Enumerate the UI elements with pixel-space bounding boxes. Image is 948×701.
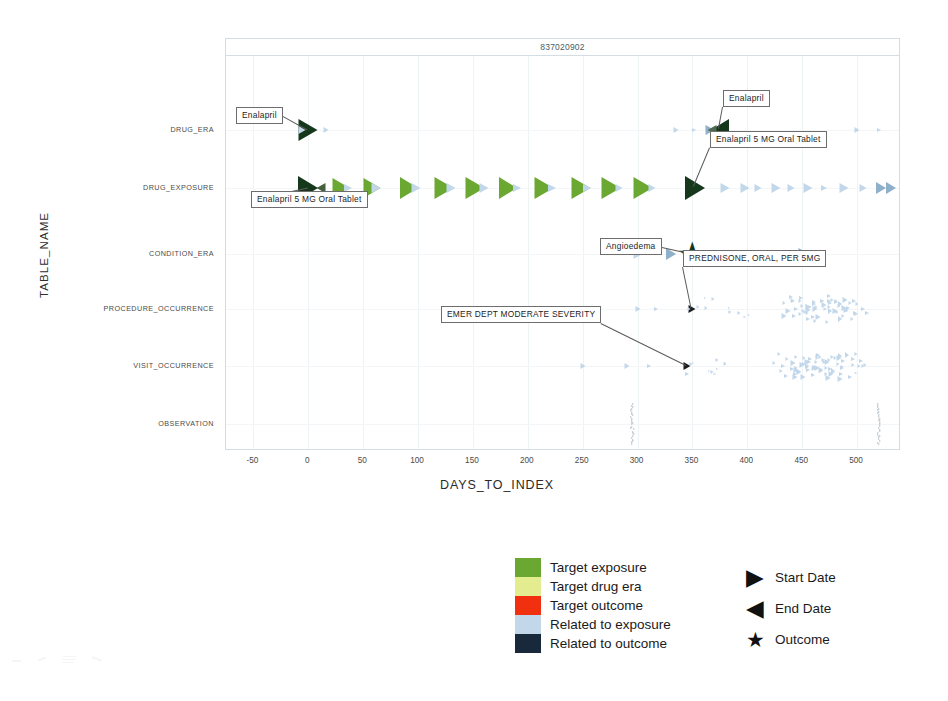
chart-title: 837020902 bbox=[540, 42, 584, 52]
start-date-icon bbox=[841, 359, 845, 363]
start-date-icon bbox=[828, 358, 831, 362]
start-date-icon bbox=[715, 358, 718, 362]
start-date-icon bbox=[812, 306, 817, 312]
start-date-icon bbox=[790, 367, 794, 371]
start-date-icon bbox=[806, 317, 810, 321]
start-date-icon bbox=[624, 363, 629, 369]
start-date-icon bbox=[748, 314, 750, 316]
start-date-icon bbox=[828, 308, 832, 314]
start-date-icon bbox=[861, 307, 865, 311]
gridline-vertical bbox=[583, 56, 584, 449]
chart-legend: Target exposureTarget drug eraTarget out… bbox=[430, 548, 900, 673]
start-date-icon bbox=[856, 302, 859, 306]
start-date-icon bbox=[833, 308, 838, 314]
start-date-icon bbox=[834, 299, 837, 303]
start-date-icon bbox=[741, 183, 750, 193]
start-date-icon bbox=[786, 357, 789, 361]
x-axis-tick-350: 350 bbox=[685, 456, 699, 465]
start-date-icon bbox=[755, 184, 762, 192]
start-date-icon bbox=[635, 306, 640, 312]
x-axis-tick-200: 200 bbox=[520, 456, 534, 465]
start-date-icon bbox=[824, 307, 827, 311]
start-date-icon bbox=[859, 184, 866, 192]
start-date-icon bbox=[791, 299, 795, 303]
start-date-icon bbox=[886, 182, 896, 194]
y-axis-label-drug_exposure: DRUG_EXPOSURE bbox=[143, 183, 214, 192]
start-date-icon bbox=[814, 360, 817, 364]
start-date-icon bbox=[548, 184, 556, 192]
start-date-icon bbox=[834, 356, 837, 360]
start-date-icon bbox=[828, 301, 832, 305]
legend-shape-row: ◀End Date bbox=[735, 593, 836, 624]
end-date-icon: ◀ bbox=[735, 595, 775, 622]
start-date-icon bbox=[865, 311, 869, 315]
start-date-icon bbox=[852, 363, 855, 367]
y-axis-tick-labels: DRUG_ERADRUG_EXPOSURECONDITION_ERAPROCED… bbox=[0, 38, 222, 450]
x-axis-tick-250: 250 bbox=[575, 456, 589, 465]
annotation-callout[interactable]: PREDNISONE, ORAL, PER 5MG bbox=[683, 250, 826, 267]
gridline-horizontal bbox=[226, 424, 899, 425]
start-date-icon bbox=[801, 304, 804, 308]
chart-title-band: 837020902 bbox=[226, 39, 899, 56]
start-date-icon bbox=[692, 128, 696, 132]
annotation-callout[interactable]: Enalapril bbox=[723, 90, 770, 107]
outcome-star-icon: ★ bbox=[735, 628, 775, 652]
start-date-icon bbox=[615, 184, 622, 192]
scan-artifact bbox=[8, 652, 138, 674]
start-date-icon bbox=[411, 183, 420, 193]
start-date-icon bbox=[795, 355, 798, 359]
legend-label-related-to-exposure: Related to exposure bbox=[550, 615, 671, 634]
start-date-icon bbox=[855, 372, 858, 374]
start-date-icon bbox=[879, 440, 881, 442]
start-date-icon bbox=[778, 352, 781, 356]
start-date-icon bbox=[697, 305, 700, 309]
start-date-icon bbox=[743, 316, 746, 318]
start-date-icon bbox=[811, 315, 815, 319]
gridline-vertical bbox=[528, 56, 529, 449]
start-date-icon bbox=[821, 185, 827, 191]
annotation-callout[interactable]: Enalapril bbox=[236, 107, 283, 124]
start-date-icon bbox=[851, 317, 854, 321]
start-date-icon bbox=[806, 368, 810, 372]
start-date-icon bbox=[879, 430, 881, 432]
start-date-icon bbox=[822, 358, 825, 362]
x-axis-tick--50: -50 bbox=[247, 456, 259, 465]
annotation-callout[interactable]: Enalapril 5 MG Oral Tablet bbox=[251, 191, 368, 208]
start-date-icon bbox=[841, 365, 844, 369]
legend-color-labels: Target exposureTarget drug eraTarget out… bbox=[550, 558, 671, 653]
start-date-icon bbox=[792, 314, 796, 318]
gridline-vertical bbox=[363, 56, 364, 449]
start-date-icon bbox=[648, 184, 655, 192]
legend-swatch-target-exposure bbox=[515, 558, 541, 577]
start-date-icon bbox=[704, 297, 706, 299]
legend-swatch-target-drug-era bbox=[515, 577, 541, 596]
start-date-icon bbox=[838, 316, 842, 322]
annotation-callout[interactable]: Angioedema bbox=[600, 238, 662, 255]
start-date-icon bbox=[803, 183, 812, 193]
gridline-vertical bbox=[308, 56, 309, 449]
annotation-callout[interactable]: EMER DEPT MODERATE SEVERITY bbox=[441, 306, 601, 323]
start-date-icon bbox=[843, 297, 848, 303]
legend-swatch-related-to-exposure bbox=[515, 615, 541, 634]
start-date-icon bbox=[786, 308, 791, 314]
start-date-icon bbox=[839, 183, 848, 193]
gridline-horizontal bbox=[226, 188, 899, 189]
x-axis-tick-400: 400 bbox=[739, 456, 753, 465]
start-date-icon bbox=[784, 374, 788, 378]
start-date-icon bbox=[712, 297, 715, 301]
start-date-icon bbox=[583, 184, 591, 192]
x-axis-tick-450: 450 bbox=[794, 456, 808, 465]
x-axis-title: DAYS_TO_INDEX bbox=[440, 478, 554, 492]
legend-shape-row: ▶Start Date bbox=[735, 562, 836, 593]
start-date-icon bbox=[852, 299, 856, 303]
chart-page: TABLE_NAME DRUG_ERADRUG_EXPOSURECONDITIO… bbox=[0, 0, 948, 701]
start-date-icon bbox=[825, 320, 828, 324]
start-date-icon bbox=[813, 319, 816, 323]
start-date-icon bbox=[779, 369, 782, 373]
annotation-callout[interactable]: Enalapril 5 MG Oral Tablet bbox=[710, 131, 827, 148]
start-date-icon bbox=[845, 352, 849, 358]
start-date-icon bbox=[788, 184, 795, 192]
start-date-icon bbox=[857, 364, 860, 368]
start-date-icon bbox=[704, 306, 707, 310]
start-date-icon bbox=[685, 372, 689, 376]
